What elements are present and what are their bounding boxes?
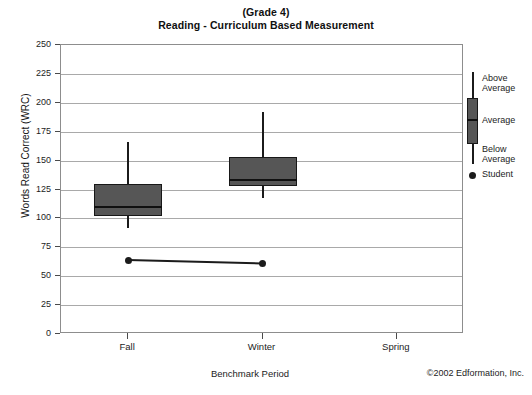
whisker-upper-fall: [127, 142, 129, 184]
chart-page: (Grade 4) Reading - Curriculum Based Mea…: [0, 0, 532, 395]
legend-label-average: Average: [482, 116, 515, 126]
gridline: [61, 276, 462, 277]
x-tick-mark: [396, 333, 397, 339]
x-axis-title: Benchmark Period: [170, 368, 330, 379]
y-tick-label: 125: [5, 185, 51, 194]
y-tick-label: 225: [5, 69, 51, 78]
whisker-upper-winter: [262, 112, 264, 157]
gridline: [61, 218, 462, 219]
student-data-point-fall: [125, 257, 132, 264]
legend-student-marker-icon: [469, 172, 476, 179]
median-winter: [229, 179, 297, 181]
x-tick-mark: [127, 333, 128, 339]
legend-student-text: Student: [482, 169, 513, 179]
box-fall: [94, 184, 162, 216]
legend-label-above-average: Above Average: [482, 74, 515, 93]
x-tick-label-winter: Winter: [222, 341, 302, 352]
y-tick-label: 0: [5, 329, 51, 338]
student-line-segment: [128, 259, 262, 264]
legend-lower-whisker: [472, 143, 474, 164]
chart-title-grade: (Grade 4): [0, 6, 532, 19]
y-tick-label: 75: [5, 242, 51, 251]
y-tick-label: 100: [5, 213, 51, 222]
legend-median-line: [467, 119, 478, 121]
x-tick-label-fall: Fall: [87, 341, 167, 352]
legend-average-text: Average: [482, 115, 515, 125]
copyright-notice: ©2002 Edformation, Inc.: [427, 368, 524, 378]
legend: Above Average Average Below Average Stud…: [466, 62, 532, 192]
y-tick-label: 200: [5, 98, 51, 107]
legend-below-average-line2: Average: [482, 154, 515, 164]
x-tick-label-spring: Spring: [356, 341, 436, 352]
chart-title-subject: Reading - Curriculum Based Measurement: [0, 19, 532, 32]
legend-box: [467, 98, 478, 144]
gridline: [61, 247, 462, 248]
y-tick-label: 50: [5, 271, 51, 280]
median-fall: [94, 206, 162, 208]
y-tick-label: 250: [5, 40, 51, 49]
legend-label-student: Student: [482, 170, 513, 180]
x-tick-mark: [262, 333, 263, 339]
y-tick-label: 150: [5, 156, 51, 165]
box-winter: [229, 157, 297, 186]
whisker-lower-fall: [127, 216, 129, 228]
y-tick-mark: [55, 333, 60, 334]
legend-label-below-average: Below Average: [482, 145, 515, 164]
gridline: [61, 305, 462, 306]
legend-above-average-line1: Above: [482, 73, 508, 83]
gridline: [61, 74, 462, 75]
whisker-lower-winter: [262, 186, 264, 198]
y-tick-label: 25: [5, 300, 51, 309]
y-tick-label: 175: [5, 127, 51, 136]
legend-upper-whisker: [472, 72, 474, 99]
plot-area: [60, 44, 463, 333]
student-data-point-winter: [259, 260, 266, 267]
gridline: [61, 103, 462, 104]
chart-title: (Grade 4) Reading - Curriculum Based Mea…: [0, 6, 532, 32]
legend-below-average-line1: Below: [482, 144, 507, 154]
legend-above-average-line2: Average: [482, 83, 515, 93]
